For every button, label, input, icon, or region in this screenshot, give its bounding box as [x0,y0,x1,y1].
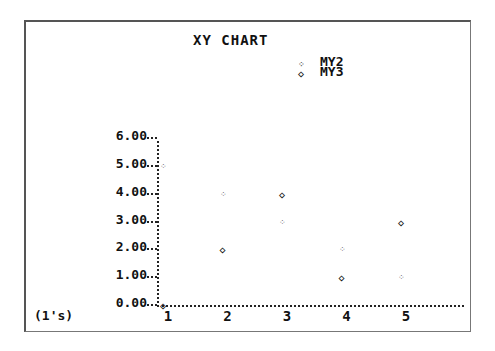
x-tick-label: 5 [402,308,410,324]
x-tick-label: 2 [223,308,231,324]
y-tick-mark [147,137,157,139]
y-tick-mark [147,193,157,195]
legend-label: MY3 [320,66,343,78]
y-tick-mark [147,248,157,250]
chart-frame [24,20,471,332]
y-tick-label: 2.00 [116,239,147,254]
y-tick-label: 6.00 [116,128,147,143]
diamond-icon: ◇ [279,189,285,198]
x-marker-icon: ⁘ [339,245,345,254]
y-tick-label: 1.00 [116,267,147,282]
y-tick-mark [147,304,157,306]
x-axis-unit-label: (1's) [34,308,73,323]
y-tick-mark [147,165,157,167]
y-axis [157,141,159,307]
diamond-icon: ◇ [298,68,304,79]
y-tick-label: 3.00 [116,212,147,227]
y-tick-mark [147,276,157,278]
diamond-icon: ◇ [219,245,225,254]
y-tick-label: 4.00 [116,184,147,199]
x-marker-icon: ⁘ [398,273,404,282]
y-tick-mark [147,221,157,223]
y-tick-label: 5.00 [116,156,147,171]
x-marker-icon: ⁘ [279,217,285,226]
y-tick-label: 0.00 [116,295,147,310]
x-axis [157,305,464,307]
x-marker-icon: ⁘ [160,162,166,171]
diamond-icon: ◇ [398,217,404,226]
x-tick-label: 3 [283,308,291,324]
diamond-icon: ◇ [160,301,166,310]
x-tick-label: 4 [342,308,350,324]
diamond-icon: ◇ [338,273,344,282]
legend-item-my3: ◇ MY3 [298,67,304,80]
x-marker-icon: ⁘ [220,189,226,198]
chart-title: XY CHART [193,32,268,48]
